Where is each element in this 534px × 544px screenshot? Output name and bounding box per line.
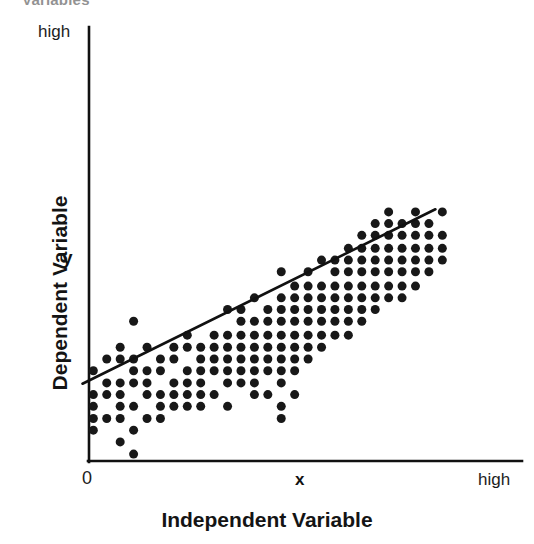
scatter-point: [250, 343, 259, 352]
scatter-point: [277, 293, 286, 302]
scatter-point: [236, 378, 245, 387]
scatter-point: [156, 355, 165, 364]
scatter-point: [236, 366, 245, 375]
scatter-point: [277, 355, 286, 364]
scatter-point: [330, 331, 339, 340]
scatter-point: [357, 305, 366, 314]
scatter-point: [277, 267, 286, 276]
scatter-point: [263, 390, 272, 399]
scatter-point: [371, 267, 380, 276]
scatter-point: [263, 317, 272, 326]
scatter-point: [196, 366, 205, 375]
scatter-point: [169, 355, 178, 364]
scatter-point: [116, 390, 125, 399]
scatter-point: [210, 355, 219, 364]
scatter-point: [263, 305, 272, 314]
scatter-point: [183, 343, 192, 352]
scatter-point: [277, 305, 286, 314]
scatter-point: [196, 355, 205, 364]
scatter-point: [129, 402, 138, 411]
scatter-point: [116, 402, 125, 411]
scatter-point: [411, 244, 420, 253]
scatter-point: [317, 331, 326, 340]
scatter-point: [371, 244, 380, 253]
scatter-point: [277, 378, 286, 387]
scatter-point: [304, 293, 313, 302]
scatter-point: [143, 378, 152, 387]
scatter-point: [424, 219, 433, 228]
data-points-layer: [89, 207, 447, 458]
scatter-point: [236, 343, 245, 352]
scatter-point: [317, 317, 326, 326]
scatter-point: [223, 378, 232, 387]
regression-trend-line: [83, 209, 436, 383]
scatter-point: [277, 317, 286, 326]
scatter-point: [223, 331, 232, 340]
scatter-point: [398, 293, 407, 302]
scatter-point: [236, 317, 245, 326]
scatter-point: [210, 343, 219, 352]
scatter-point: [210, 390, 219, 399]
scatter-point: [236, 331, 245, 340]
scatter-point: [371, 305, 380, 314]
scatter-point: [143, 366, 152, 375]
scatter-point: [223, 366, 232, 375]
scatter-point: [317, 343, 326, 352]
scatter-point: [129, 426, 138, 435]
scatter-point: [290, 282, 299, 291]
scatter-point: [290, 390, 299, 399]
scatter-point: [116, 343, 125, 352]
scatter-point: [102, 355, 111, 364]
scatter-point: [277, 402, 286, 411]
scatter-point: [344, 293, 353, 302]
scatter-point: [196, 378, 205, 387]
scatter-point: [116, 378, 125, 387]
scatter-point: [277, 331, 286, 340]
scatter-point: [411, 231, 420, 240]
scatter-point: [411, 256, 420, 265]
scatter-point: [384, 244, 393, 253]
scatter-point: [398, 256, 407, 265]
scatter-point: [89, 402, 98, 411]
scatter-point: [290, 343, 299, 352]
scatter-point: [169, 343, 178, 352]
scatter-point: [169, 390, 178, 399]
scatter-point: [290, 305, 299, 314]
scatter-point: [304, 343, 313, 352]
scatter-point: [156, 390, 165, 399]
scatter-point: [384, 282, 393, 291]
scatter-point: [398, 244, 407, 253]
scatter-point: [411, 267, 420, 276]
scatter-point: [304, 331, 313, 340]
scatter-point: [236, 355, 245, 364]
scatter-point: [210, 366, 219, 375]
scatter-point: [438, 256, 447, 265]
scatter-point: [304, 355, 313, 364]
scatter-point: [438, 207, 447, 216]
scatter-point: [384, 293, 393, 302]
scatter-point: [384, 219, 393, 228]
scatter-point: [223, 402, 232, 411]
scatter-point: [129, 317, 138, 326]
scatter-point: [290, 331, 299, 340]
scatter-point: [357, 317, 366, 326]
scatter-point: [344, 305, 353, 314]
scatter-point: [116, 414, 125, 423]
scatter-point: [250, 355, 259, 364]
scatter-point: [89, 414, 98, 423]
scatter-point: [290, 355, 299, 364]
plot-canvas: [0, 0, 534, 544]
scatter-point: [317, 282, 326, 291]
scatter-point: [277, 366, 286, 375]
scatter-point: [89, 366, 98, 375]
scatter-point: [169, 402, 178, 411]
scatter-point: [438, 231, 447, 240]
scatter-point: [330, 317, 339, 326]
scatter-point: [196, 402, 205, 411]
scatter-point: [89, 426, 98, 435]
scatter-point: [398, 231, 407, 240]
scatter-point: [196, 390, 205, 399]
scatter-point: [156, 366, 165, 375]
scatter-point: [263, 366, 272, 375]
scatter-point: [129, 378, 138, 387]
